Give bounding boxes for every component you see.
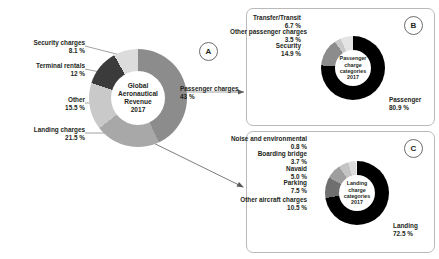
label-landing: Landing 72.5 % [393, 222, 438, 237]
label-security-charges: Security charges 8.1 % [5, 39, 85, 54]
center-text: Landingchargecategories2017 [344, 180, 371, 206]
center-text: Passengerchargecategories2017 [340, 55, 367, 81]
label-value: 43 % [180, 93, 240, 101]
label-value: 21.5 % [5, 134, 85, 142]
figure-canvas: GlobalAeronauticalRevenue2017 Security c… [0, 0, 439, 259]
label-noise-environmental: Noise and environmental 0.8 % [228, 135, 307, 150]
callout-marker-b[interactable]: B [404, 16, 423, 35]
label-other-aircraft-charges: Other aircraft charges 10.5 % [232, 196, 307, 211]
landing-donut-chart: Landingchargecategories2017 [325, 161, 389, 225]
callout-marker-a[interactable]: A [199, 42, 218, 61]
label-boarding-bridge: Boarding bridge 3.7 % [247, 150, 307, 165]
main-donut-center-label: GlobalAeronauticalRevenue2017 [111, 71, 165, 125]
main-donut-chart: GlobalAeronauticalRevenue2017 [89, 49, 187, 147]
label-text: Parking [284, 179, 307, 186]
label-text: Passenger [389, 96, 421, 103]
label-text: Landing [393, 222, 418, 229]
label-navaid: Navaid 5.0 % [247, 165, 307, 180]
label-value: 8.1 % [5, 47, 85, 55]
label-transfer-transit: Transfer/Transit 6.7 % [241, 14, 301, 29]
label-value: 14.9 % [241, 50, 301, 58]
label-passenger-charges: Passenger charges 43 % [180, 85, 240, 100]
label-terminal-rentals: Terminal rentals 12 % [5, 62, 85, 77]
label-text: Landing charges [34, 126, 85, 133]
label-other-passenger-charges: Other passenger charges 3.5 % [230, 28, 301, 43]
label-value: 80.9 % [389, 104, 437, 112]
label-text: Other aircraft charges [240, 196, 307, 203]
label-text: Other [68, 96, 85, 103]
donut-c-center-label: Landingchargecategories2017 [339, 175, 375, 211]
label-text: Security charges [33, 39, 85, 46]
label-value: 72.5 % [393, 230, 438, 238]
label-value: 7.5 % [247, 187, 307, 195]
label-text: Transfer/Transit [253, 14, 301, 21]
label-text: Other passenger charges [230, 28, 307, 35]
label-value: 12 % [5, 70, 85, 78]
label-parking: Parking 7.5 % [247, 179, 307, 194]
label-value: 10.5 % [232, 204, 307, 212]
label-landing-charges: Landing charges 21.5 % [5, 126, 85, 141]
label-text: Terminal rentals [36, 62, 85, 69]
label-passenger: Passenger 80.9 % [389, 96, 437, 111]
passenger-donut-chart: Passengerchargecategories2017 [321, 36, 385, 100]
center-text: GlobalAeronauticalRevenue2017 [118, 82, 158, 115]
label-value: 15.5 % [5, 104, 85, 112]
label-text: Navaid [286, 165, 307, 172]
label-security: Security 14.9 % [241, 42, 301, 57]
donut-b-center-label: Passengerchargecategories2017 [335, 50, 371, 86]
label-text: Noise and environmental [231, 135, 307, 142]
label-other: Other 15.5 % [5, 96, 85, 111]
label-text: Passenger charges [180, 85, 239, 92]
label-text: Security [276, 42, 301, 49]
callout-marker-c[interactable]: C [404, 139, 423, 158]
label-text: Boarding bridge [258, 150, 307, 157]
